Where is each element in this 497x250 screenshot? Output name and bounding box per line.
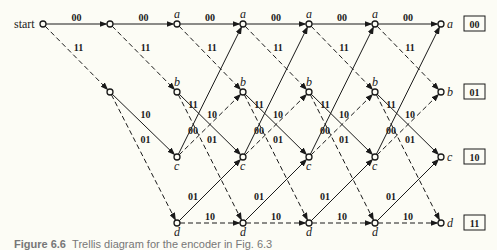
state-code-boxes: 00011011 — [464, 16, 485, 230]
edge-a-b — [112, 26, 174, 89]
node-b — [107, 89, 113, 95]
state-label-c: c — [240, 159, 246, 173]
edge-output-label: 11 — [188, 99, 197, 110]
edge-output-label: 01 — [339, 134, 349, 145]
state-label-a: a — [372, 7, 378, 21]
edge-output-label: 00 — [386, 125, 396, 136]
edge-output-label: 10 — [205, 211, 215, 222]
state-code-b: 01 — [470, 87, 480, 98]
node-b — [240, 89, 246, 95]
edge-output-label: 01 — [188, 191, 198, 202]
edge-output-label: 00 — [254, 125, 264, 136]
figure-caption: Figure 6.6 Trellis diagram for the encod… — [14, 238, 272, 250]
state-label-c: c — [372, 159, 378, 173]
state-label-d: d — [306, 225, 313, 239]
node-a — [372, 21, 378, 27]
edge-output-label: 11 — [207, 42, 216, 53]
state-label-d: d — [447, 216, 454, 230]
edge-output-label: 01 — [273, 134, 283, 145]
edge-output-label: 10 — [403, 211, 413, 222]
edge-a-b — [311, 26, 372, 89]
start-label: start — [14, 17, 35, 31]
node-a — [438, 21, 444, 27]
edge-output-label: 00 — [271, 12, 281, 23]
node-d — [438, 220, 444, 226]
edge-output-label: 11 — [273, 42, 282, 53]
edge-output-label: 01 — [207, 134, 217, 145]
state-label-b: b — [240, 75, 246, 89]
state-label-b: b — [447, 85, 453, 99]
edge-output-label: 00 — [139, 12, 149, 23]
edge-b-c — [112, 94, 174, 154]
node-a — [240, 21, 246, 27]
edge-a-b — [245, 26, 306, 89]
edge-output-label: 10 — [339, 109, 349, 120]
edge-output-label: 10 — [271, 211, 281, 222]
start-node — [40, 21, 46, 27]
node-a — [107, 21, 113, 27]
edge-output-label: 00 — [205, 12, 215, 23]
caption-number: Figure 6.6 — [14, 238, 66, 250]
state-label-b: b — [372, 75, 378, 89]
state-label-c: c — [174, 159, 180, 173]
edge-output-label: 01 — [386, 191, 396, 202]
trellis-edges — [45, 24, 439, 223]
node-a — [174, 21, 180, 27]
edge-output-label: 10 — [273, 109, 283, 120]
state-label-c: c — [447, 150, 453, 164]
edge-output-label: 11 — [320, 99, 329, 110]
node-b — [306, 89, 312, 95]
state-code-c: 10 — [470, 152, 480, 163]
edge-output-label: 11 — [405, 42, 414, 53]
edge-output-label: 01 — [320, 191, 330, 202]
state-label-b: b — [174, 75, 180, 89]
state-label-d: d — [174, 225, 181, 239]
edge-start-b — [45, 26, 107, 89]
edge-output-label: 11 — [254, 99, 263, 110]
edge-output-label: 00 — [403, 12, 413, 23]
edge-output-label: 01 — [254, 191, 264, 202]
node-b — [174, 89, 180, 95]
edge-output-label: 10 — [140, 109, 150, 120]
state-label-a: a — [447, 17, 453, 31]
edge-output-label: 10 — [405, 109, 415, 120]
edge-output-label: 01 — [405, 134, 415, 145]
edge-output-label: 00 — [188, 125, 198, 136]
edge-output-label: 10 — [207, 109, 217, 120]
state-label-b: b — [306, 75, 312, 89]
edge-output-label: 01 — [140, 134, 150, 145]
node-b — [438, 89, 444, 95]
edge-a-b — [179, 26, 240, 89]
edge-output-label: 00 — [320, 125, 330, 136]
state-code-a: 00 — [470, 19, 480, 30]
state-label-a: a — [240, 7, 246, 21]
state-label-a: a — [174, 7, 180, 21]
node-a — [306, 21, 312, 27]
state-label-d: d — [240, 225, 247, 239]
state-label-d: d — [372, 225, 379, 239]
caption-text: Trellis diagram for the encoder in Fig. … — [72, 238, 272, 250]
edge-output-label: 10 — [337, 211, 347, 222]
edge-output-label: 11 — [386, 99, 395, 110]
node-c — [438, 154, 444, 160]
edge-output-label: 11 — [339, 42, 348, 53]
node-b — [372, 89, 378, 95]
edge-output-label: 11 — [74, 42, 83, 53]
edge-output-label: 00 — [337, 12, 347, 23]
edge-output-label: 00 — [72, 12, 82, 23]
edge-a-b — [377, 26, 438, 89]
state-label-a: a — [306, 7, 312, 21]
state-label-c: c — [306, 159, 312, 173]
trellis-nodes — [40, 21, 444, 226]
state-code-d: 11 — [470, 218, 479, 229]
edge-output-label: 11 — [141, 42, 150, 53]
